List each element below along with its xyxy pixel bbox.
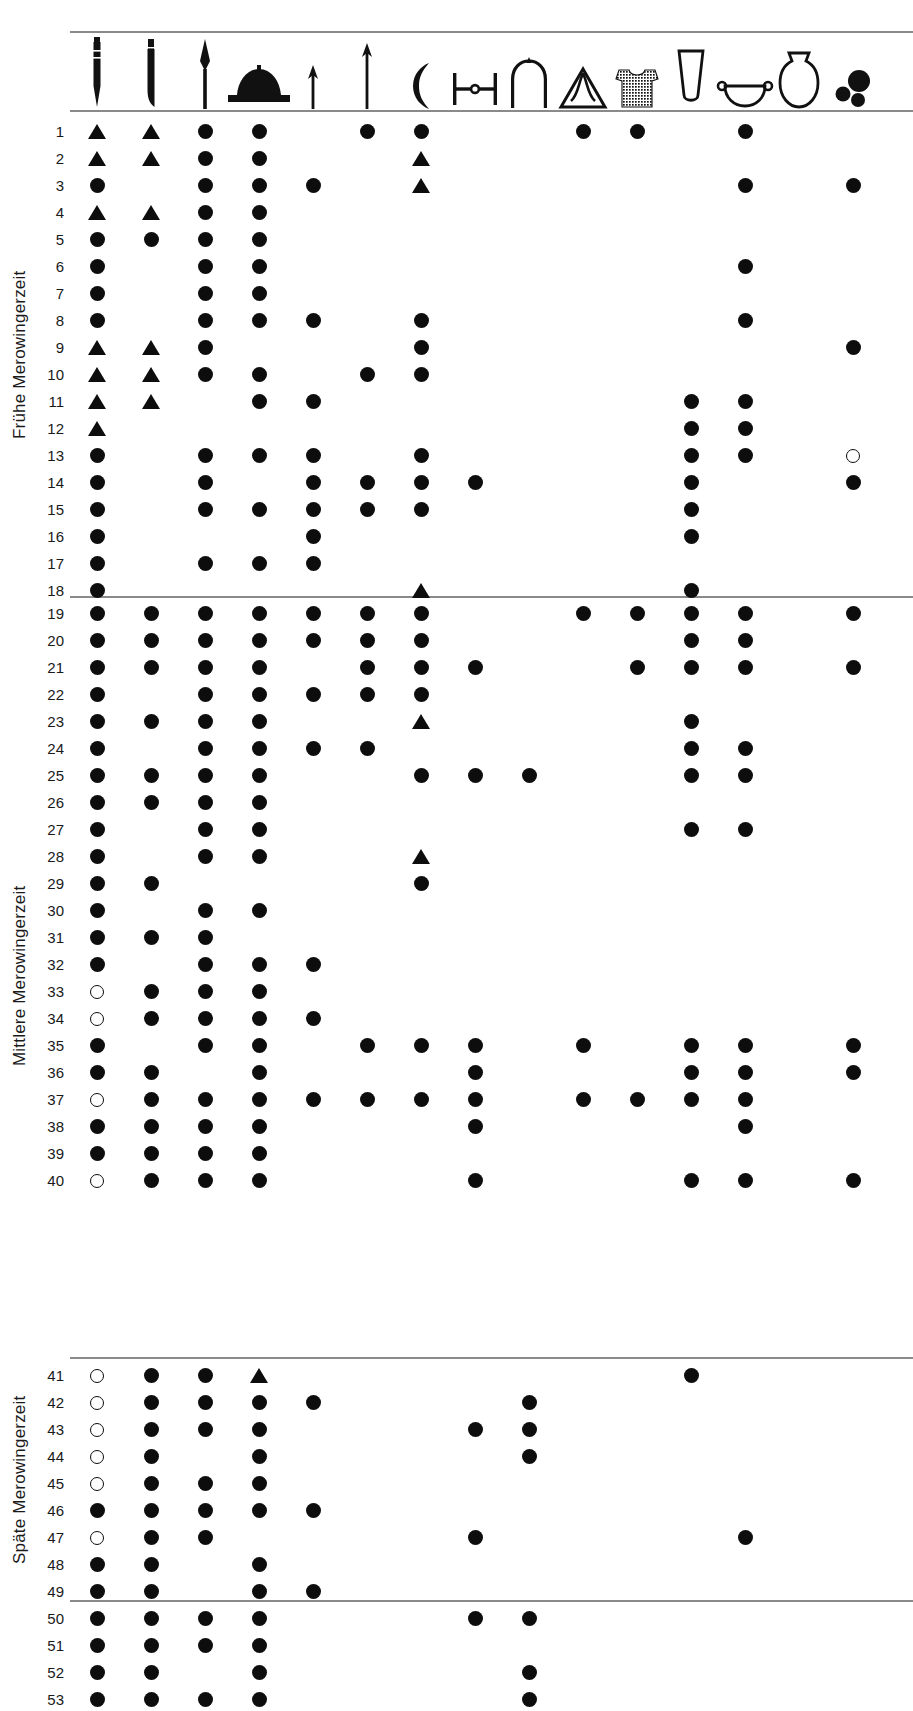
row-number: 15 xyxy=(38,496,64,523)
cell-mark-filled xyxy=(178,1389,232,1416)
row-number: 25 xyxy=(38,762,64,789)
mark-filled xyxy=(738,660,753,675)
mark-filled xyxy=(90,583,105,598)
mark-filled xyxy=(144,930,159,945)
cell-mark-filled xyxy=(178,789,232,816)
mark-filled xyxy=(468,1173,483,1188)
mark-filled xyxy=(90,876,105,891)
cell-mark-filled xyxy=(664,1362,718,1389)
mark-filled xyxy=(684,448,699,463)
mark-filled xyxy=(198,232,213,247)
cell-mark-open xyxy=(70,1005,124,1032)
mark-filled xyxy=(198,1395,213,1410)
cell-mark-filled xyxy=(178,280,232,307)
mark-filled xyxy=(198,714,213,729)
mark-filled xyxy=(252,1422,267,1437)
mark-filled xyxy=(306,502,321,517)
cell-mark-filled xyxy=(232,1632,286,1659)
mark-filled xyxy=(252,822,267,837)
row-number: 4 xyxy=(38,199,64,226)
mark-filled xyxy=(144,1503,159,1518)
mark-filled xyxy=(630,1092,645,1107)
cell-mark-filled xyxy=(124,924,178,951)
mark-filled xyxy=(306,606,321,621)
mark-filled xyxy=(738,259,753,274)
cell-mark-filled xyxy=(718,1032,772,1059)
mark-filled xyxy=(144,232,159,247)
row-number: 23 xyxy=(38,708,64,735)
row-number: 24 xyxy=(38,735,64,762)
cell-mark-filled xyxy=(70,253,124,280)
cell-mark-filled xyxy=(718,735,772,762)
cell-mark-filled xyxy=(70,951,124,978)
cell-mark-filled xyxy=(232,1443,286,1470)
cell-mark-filled xyxy=(70,1686,124,1711)
cell-mark-filled xyxy=(232,118,286,145)
mark-tri xyxy=(142,367,160,382)
cell-mark-filled xyxy=(178,735,232,762)
mark-filled xyxy=(90,178,105,193)
mark-filled xyxy=(576,124,591,139)
mark-filled xyxy=(252,1665,267,1680)
mark-filled xyxy=(144,1692,159,1707)
mark-open xyxy=(90,1369,104,1383)
cell-mark-filled xyxy=(232,843,286,870)
cell-mark-filled xyxy=(286,307,340,334)
cell-mark-filled xyxy=(70,1578,124,1605)
mark-filled xyxy=(414,502,429,517)
cell-mark-filled xyxy=(178,1470,232,1497)
mark-filled xyxy=(198,822,213,837)
mark-filled xyxy=(522,1692,537,1707)
mark-filled xyxy=(198,741,213,756)
mark-filled xyxy=(846,606,861,621)
cell-mark-filled xyxy=(826,469,880,496)
mark-filled xyxy=(630,606,645,621)
mark-filled xyxy=(522,1611,537,1626)
cell-mark-filled xyxy=(124,708,178,735)
cell-mark-filled xyxy=(124,1659,178,1686)
row-number: 49 xyxy=(38,1578,64,1605)
mark-filled xyxy=(684,1065,699,1080)
cell-mark-filled xyxy=(664,523,718,550)
cell-mark-tri xyxy=(70,415,124,442)
mark-filled xyxy=(198,633,213,648)
cell-mark-tri xyxy=(124,361,178,388)
cell-mark-tri xyxy=(394,843,448,870)
cell-mark-filled xyxy=(178,1140,232,1167)
cell-mark-filled xyxy=(124,978,178,1005)
cell-mark-filled xyxy=(178,1686,232,1711)
table-row: 6 xyxy=(0,253,913,280)
mark-filled xyxy=(144,1557,159,1572)
mark-filled xyxy=(198,1119,213,1134)
cell-mark-filled xyxy=(664,1167,718,1194)
mark-tri xyxy=(142,394,160,409)
mark-filled xyxy=(738,124,753,139)
mark-filled xyxy=(144,714,159,729)
mark-filled xyxy=(198,151,213,166)
mark-filled xyxy=(252,687,267,702)
cell-mark-filled xyxy=(502,1686,556,1711)
mark-filled xyxy=(252,1476,267,1491)
cell-mark-tri xyxy=(70,145,124,172)
cell-mark-open xyxy=(70,1524,124,1551)
cell-mark-filled xyxy=(124,654,178,681)
mark-filled xyxy=(306,741,321,756)
cell-mark-tri xyxy=(124,199,178,226)
mark-filled xyxy=(144,1119,159,1134)
cell-mark-filled xyxy=(178,334,232,361)
mark-filled xyxy=(252,205,267,220)
table-row: 45 xyxy=(0,1470,913,1497)
cell-mark-filled xyxy=(178,681,232,708)
mark-filled xyxy=(684,1038,699,1053)
table-row: 21 xyxy=(0,654,913,681)
mark-filled xyxy=(306,1395,321,1410)
cell-mark-filled xyxy=(70,681,124,708)
cell-mark-filled xyxy=(178,1362,232,1389)
mark-filled xyxy=(306,1503,321,1518)
table-row: 25 xyxy=(0,762,913,789)
mark-filled xyxy=(90,768,105,783)
mark-filled xyxy=(198,367,213,382)
mark-filled xyxy=(738,1038,753,1053)
cell-mark-filled xyxy=(286,523,340,550)
mark-filled xyxy=(144,633,159,648)
